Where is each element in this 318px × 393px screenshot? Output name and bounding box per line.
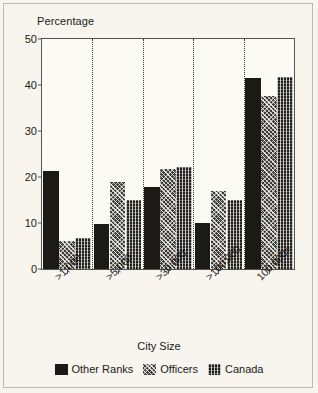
legend-swatch-fine-grid-icon — [208, 364, 221, 375]
chart-page: Percentage 01020304050 >1,000>5,000>30,0… — [0, 0, 318, 393]
bar-100000+-other-ranks — [245, 78, 261, 269]
plot-area: 01020304050 — [41, 38, 295, 270]
legend-swatch-solid-black-icon — [55, 364, 68, 375]
legend-item-officers[interactable]: Officers — [143, 363, 198, 375]
bar-100000+-canada — [277, 77, 293, 269]
bar-5000-other-ranks — [94, 224, 110, 269]
y-tick-mark — [38, 269, 42, 270]
chart-legend: Other RanksOfficersCanada — [0, 363, 318, 375]
legend-item-canada[interactable]: Canada — [208, 363, 264, 375]
legend-label: Other Ranks — [72, 363, 134, 375]
y-tick-label: 40 — [25, 79, 37, 91]
bar-1000-other-ranks — [43, 171, 59, 269]
legend-item-other-ranks[interactable]: Other Ranks — [55, 363, 134, 375]
legend-label: Canada — [225, 363, 264, 375]
legend-swatch-diagonal-crosshatch-icon — [143, 364, 156, 375]
y-tick-mark — [38, 85, 42, 86]
y-tick-mark — [38, 39, 42, 40]
bar-100000+-officers — [261, 96, 277, 269]
y-tick-label: 20 — [25, 171, 37, 183]
y-tick-mark — [38, 131, 42, 132]
y-tick-label: 0 — [31, 263, 37, 275]
y-tick-label: 50 — [25, 33, 37, 45]
bar-30000-other-ranks — [144, 187, 160, 269]
y-tick-mark — [38, 223, 42, 224]
y-tick-mark — [38, 177, 42, 178]
y-tick-label: 10 — [25, 217, 37, 229]
x-axis-title: City Size — [0, 340, 318, 352]
y-tick-label: 30 — [25, 125, 37, 137]
y-axis-title: Percentage — [37, 15, 94, 27]
bar-100000-other-ranks — [195, 223, 211, 269]
legend-label: Officers — [160, 363, 198, 375]
